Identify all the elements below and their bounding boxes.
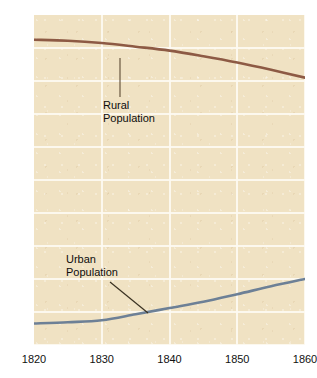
urban-annotation-line1: Urban xyxy=(66,253,118,266)
x-axis-tick-label: 1840 xyxy=(157,354,181,365)
population-line-chart: 100%9080706050403020100 1820183018401850… xyxy=(0,0,317,378)
x-axis-tick-label: 1830 xyxy=(90,354,114,365)
x-axis-tick-label: 1860 xyxy=(293,354,317,365)
urban-population-annotation: Urban Population xyxy=(66,253,118,278)
x-axis-labels: 18201830184018501860 xyxy=(0,0,317,378)
urban-annotation-line2: Population xyxy=(66,266,118,279)
rural-annotation-line1: Rural xyxy=(103,99,155,112)
x-axis-tick-label: 1820 xyxy=(22,354,46,365)
x-axis-tick-label: 1850 xyxy=(225,354,249,365)
rural-annotation-line2: Population xyxy=(103,112,155,125)
rural-population-annotation: Rural Population xyxy=(103,99,155,124)
